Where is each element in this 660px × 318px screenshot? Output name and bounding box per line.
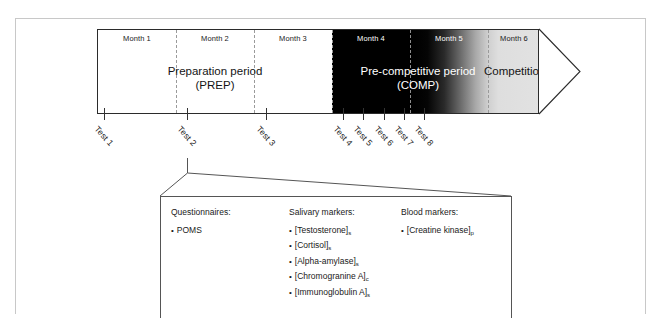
column-questionnaires-list: POMS — [171, 223, 231, 239]
column-salivary-markers-list: [Testosterone]s [Cortisol]s [Alpha-amyla… — [289, 223, 370, 301]
list-item: [Immunoglobulin A]s — [289, 285, 370, 301]
item-subscript: p — [471, 230, 474, 236]
month-label-1: Month 1 — [98, 34, 176, 43]
item-text: [Testosterone] — [295, 225, 348, 235]
phase-preparation-line2: (PREP) — [196, 79, 235, 91]
phase-competitions-line1: Competitions — [484, 65, 539, 77]
column-blood-markers-heading: Blood markers: — [401, 205, 474, 220]
column-salivary-markers-heading: Salivary markers: — [289, 205, 370, 220]
month-label-5: Month 5 — [410, 34, 488, 43]
list-item: [Testosterone]s — [289, 223, 370, 239]
column-questionnaires: Questionnaires: POMS — [171, 205, 231, 238]
item-text: [Cortisol] — [295, 240, 329, 250]
phase-pre-competitive: Pre-competitive period (COMP) — [328, 65, 508, 92]
list-item: [Cortisol]s — [289, 238, 370, 254]
column-blood-markers-list: [Creatine kinase]p — [401, 223, 474, 239]
item-text: [Chromogranine A] — [295, 271, 366, 281]
phase-competitions: Competitions — [484, 65, 539, 79]
column-blood-markers: Blood markers: [Creatine kinase]p — [401, 205, 474, 238]
month-label-2: Month 2 — [176, 34, 254, 43]
column-salivary-markers: Salivary markers: [Testosterone]s [Corti… — [289, 205, 370, 301]
item-text: [Creatine kinase] — [407, 225, 471, 235]
measures-detail-box: Questionnaires: POMS Salivary markers: [… — [160, 196, 512, 318]
timeline-band: Month 1 Month 2 Month 3 Month 4 Month 5 … — [97, 29, 539, 114]
list-item: [Chromogranine A]c — [289, 269, 370, 285]
item-subscript: s — [367, 292, 370, 298]
item-text: [Alpha-amylase] — [295, 256, 356, 266]
month-label-6: Month 6 — [488, 34, 539, 43]
phase-pre-competitive-line2: (COMP) — [397, 79, 439, 91]
phase-preparation-line1: Preparation period — [168, 65, 263, 77]
item-subscript: s — [328, 245, 331, 251]
item-text: [Immunoglobulin A] — [295, 287, 367, 297]
column-questionnaires-heading: Questionnaires: — [171, 205, 231, 220]
item-subscript: s — [348, 230, 351, 236]
list-item: POMS — [171, 223, 231, 239]
phase-preparation: Preparation period (PREP) — [98, 65, 332, 92]
timeline-arrow-head — [538, 28, 582, 115]
list-item: [Creatine kinase]p — [401, 223, 474, 239]
item-subscript: s — [356, 261, 359, 267]
item-subscript: c — [366, 276, 369, 282]
month-label-3: Month 3 — [254, 34, 332, 43]
list-item: [Alpha-amylase]s — [289, 254, 370, 270]
phase-pre-competitive-line1: Pre-competitive period — [360, 65, 475, 77]
item-text: POMS — [177, 225, 202, 235]
timeline: Month 1 Month 2 Month 3 Month 4 Month 5 … — [97, 29, 539, 114]
month-label-4: Month 4 — [332, 34, 410, 43]
